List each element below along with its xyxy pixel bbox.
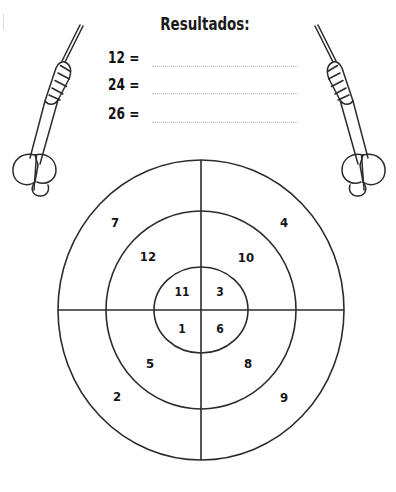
result-row: 12 = [108, 45, 298, 67]
result-label-12: 12 = [108, 50, 148, 67]
result-answer-field-12[interactable] [152, 51, 298, 67]
result-label-24: 24 = [108, 77, 148, 94]
dart-barrel-icon [327, 62, 353, 105]
inner-segment-bottom-right: 6 [216, 322, 224, 336]
middle-segment-top-right: 10 [238, 250, 254, 265]
dart-flight-icon [342, 154, 385, 196]
dart-barrel-icon [45, 62, 71, 105]
result-row: 24 = [108, 72, 298, 94]
middle-segment-bottom-right: 8 [244, 356, 252, 371]
result-answer-field-24[interactable] [152, 78, 298, 94]
worksheet-page: Resultados: 12 = 24 = 26 = [0, 0, 396, 492]
dart-needle-icon [62, 25, 83, 62]
results-title: Resultados: [130, 14, 280, 34]
middle-segment-bottom-left: 5 [146, 356, 154, 371]
middle-segment-top-left: 12 [140, 249, 156, 264]
dart-needle-icon [315, 25, 336, 62]
outer-segment-bottom-left: 2 [113, 389, 121, 404]
inner-segment-top-right: 3 [216, 285, 224, 299]
inner-segment-top-left: 11 [174, 285, 189, 299]
outer-segment-top-right: 4 [280, 215, 288, 230]
outer-segment-top-left: 7 [111, 215, 119, 230]
result-row: 26 = [108, 101, 298, 123]
inner-segment-bottom-left: 1 [178, 322, 186, 336]
dartboard: 7 4 2 9 12 10 5 8 11 3 1 6 [55, 152, 347, 468]
dart-flight-icon [13, 154, 56, 196]
result-answer-field-26[interactable] [152, 107, 298, 123]
scan-edge-artifact [3, 14, 4, 30]
result-label-26: 26 = [108, 106, 148, 123]
outer-segment-bottom-right: 9 [280, 390, 288, 405]
